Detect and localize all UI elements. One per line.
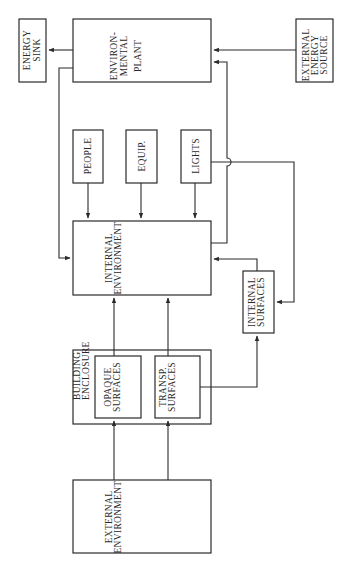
external-environment-node: EXTERNAL ENVIRONMENT: [73, 480, 211, 553]
internal-environment-node: INTERNAL ENVIRONMENT: [73, 221, 211, 295]
external-environment-label-2: ENVIRONMENT: [113, 481, 123, 554]
external-energy-source-node: EXTERNAL ENERGY SOURCE: [296, 19, 333, 82]
lights-node: LIGHTS: [181, 130, 211, 183]
edge-transp-to-internal-surfaces: [200, 336, 257, 387]
environmental-plant-label-2: MENTAL: [119, 36, 129, 77]
opaque-surfaces-node: OPAQUE SURFACES: [95, 356, 141, 418]
environmental-plant-node: ENVIRON- MENTAL PLANT: [73, 19, 211, 82]
internal-surfaces-node: INTERNAL SURFACES: [243, 271, 274, 333]
external-energy-source-label-3: SOURCE: [319, 35, 329, 74]
environmental-plant-label-1: ENVIRON-: [109, 32, 119, 80]
environmental-plant-label-3: PLANT: [133, 40, 143, 72]
transparent-surfaces-node: TRANSP. SURFACES: [155, 356, 200, 418]
edge-internal-surfaces-to-internal-env: [214, 259, 257, 271]
equipment-label: EQUIP.: [137, 140, 147, 171]
opaque-surfaces-label-2: SURFACES: [112, 362, 122, 412]
edge-internal-env-to-plant: [211, 62, 231, 243]
people-node: PEOPLE: [73, 130, 103, 183]
transparent-surfaces-label-2: SURFACES: [167, 362, 177, 412]
equipment-node: EQUIP.: [126, 130, 157, 183]
building-enclosure-label-2: ENCLOSURE: [81, 341, 91, 400]
energy-sink-label-1: ENERGY: [22, 30, 32, 70]
energy-sink-node: ENERGY SINK: [19, 19, 46, 82]
edge-plant-to-internal-env: [59, 68, 73, 258]
people-label: PEOPLE: [83, 138, 93, 175]
energy-flow-diagram: ENERGY SINK ENVIRON- MENTAL PLANT EXTERN…: [0, 0, 348, 570]
svg-text:SINK: SINK: [32, 38, 42, 61]
internal-environment-label-2: ENVIRONMENT: [113, 222, 123, 295]
internal-surfaces-label-2: SURFACES: [256, 277, 266, 327]
svg-text:ENERGY: ENERGY: [22, 30, 32, 70]
energy-sink-label-2: SINK: [32, 38, 42, 61]
lights-label: LIGHTS: [191, 138, 201, 174]
